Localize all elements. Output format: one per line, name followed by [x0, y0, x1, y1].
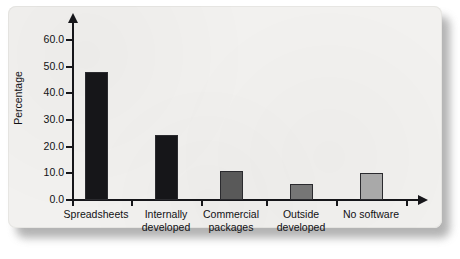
- y-axis-tick-label-text: 30.0: [24, 114, 64, 125]
- bar: [155, 135, 178, 200]
- bar: [220, 171, 243, 200]
- y-axis-tick: [66, 172, 73, 174]
- y-axis-tick: [66, 66, 73, 68]
- x-axis-arrow-icon: [418, 195, 428, 205]
- y-axis-tick-label-text: 40.0: [24, 87, 64, 98]
- y-axis-tick-label: 0.0: [20, 194, 64, 205]
- x-axis-tick: [336, 199, 338, 206]
- y-axis-tick-label: 20.0: [20, 141, 64, 152]
- x-axis-tick: [266, 199, 268, 206]
- chart-plot-area: Percentage 0.010.020.030.040.050.060.0 S…: [0, 0, 460, 259]
- x-axis-category-label-line: developed: [253, 221, 349, 234]
- x-axis-category-label: No software: [323, 208, 419, 221]
- y-axis-tick-label: 40.0: [20, 87, 64, 98]
- y-axis-tick-label-text: 60.0: [24, 34, 64, 45]
- y-axis-tick-label: 60.0: [20, 34, 64, 45]
- y-axis-tick-label: 30.0: [20, 114, 64, 125]
- y-axis-tick-label-text: 10.0: [24, 167, 64, 178]
- bar: [360, 173, 383, 200]
- y-axis-arrow-icon: [68, 13, 78, 23]
- y-axis-tick-label: 50.0: [20, 61, 64, 72]
- y-axis-tick-label: 10.0: [20, 167, 64, 178]
- x-axis-category-label-line: No software: [323, 208, 419, 221]
- x-axis-tick: [131, 199, 133, 206]
- bar: [85, 72, 108, 200]
- bar: [290, 184, 313, 200]
- y-axis-tick: [66, 119, 73, 121]
- figure-canvas: Percentage 0.010.020.030.040.050.060.0 S…: [0, 0, 460, 259]
- y-axis-tick: [66, 92, 73, 94]
- y-axis-tick-label-text: 0.0: [24, 194, 64, 205]
- x-axis-tick: [72, 199, 74, 206]
- x-axis-tick: [406, 199, 408, 206]
- y-axis-tick: [66, 39, 73, 41]
- y-axis-tick-label-text: 20.0: [24, 141, 64, 152]
- x-axis-tick: [201, 199, 203, 206]
- y-axis-tick: [66, 146, 73, 148]
- y-axis-tick-label-text: 50.0: [24, 61, 64, 72]
